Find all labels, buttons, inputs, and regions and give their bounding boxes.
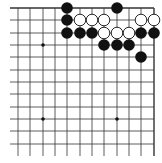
star-point — [115, 117, 119, 121]
stones-layer — [61, 2, 160, 63]
black-stone — [61, 2, 73, 14]
black-stone — [61, 27, 73, 39]
white-stone — [74, 14, 86, 26]
black-stone — [74, 27, 86, 39]
white-stone — [135, 14, 147, 26]
black-stone — [148, 27, 160, 39]
black-stone — [135, 27, 147, 39]
white-stone — [123, 27, 135, 39]
white-stone — [98, 14, 110, 26]
go-board — [0, 0, 162, 163]
black-stone — [86, 27, 98, 39]
star-point — [41, 117, 45, 121]
star-point — [41, 43, 45, 47]
black-stone — [111, 2, 123, 14]
white-stone — [86, 14, 98, 26]
white-stone — [111, 27, 123, 39]
white-stone — [148, 14, 160, 26]
black-stone — [111, 39, 123, 51]
black-stone — [98, 39, 110, 51]
white-stone — [98, 27, 110, 39]
black-stone — [61, 14, 73, 26]
black-stone — [123, 39, 135, 51]
black-stone — [135, 51, 147, 63]
